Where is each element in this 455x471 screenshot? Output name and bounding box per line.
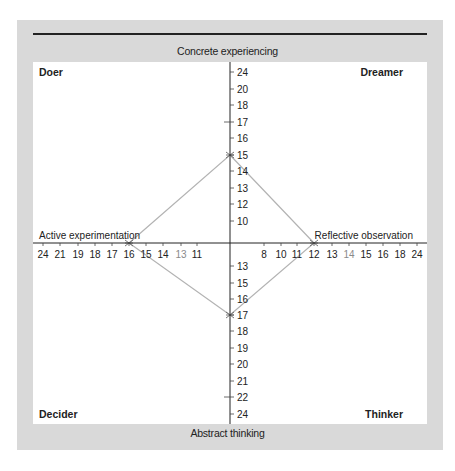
tick-label-bottom: 21: [237, 376, 249, 387]
tick-label-bottom: 20: [237, 359, 249, 370]
tick-label-right: 16: [377, 249, 389, 260]
axis-title-left: Active experimentation: [39, 230, 140, 241]
tick-label-right: 13: [326, 249, 338, 260]
score-polygon: [129, 155, 314, 315]
axis-title-right: Reflective observation: [315, 230, 413, 241]
tick-label-left: 13: [175, 249, 187, 260]
tick-label-top: 24: [237, 67, 249, 78]
tick-label-left: 21: [54, 249, 66, 260]
score-diamond: [125, 152, 318, 318]
tick-label-top: 17: [237, 117, 249, 128]
tick-label-right: 11: [292, 249, 303, 260]
tick-label-left: 24: [37, 249, 49, 260]
tick-label-bottom: 16: [237, 294, 249, 305]
tick-label-bottom: 18: [237, 326, 249, 337]
tick-label-left: 16: [123, 249, 135, 260]
tick-label-bottom: 24: [237, 409, 249, 420]
tick-label-right: 15: [360, 249, 372, 260]
tick-label-left: 18: [89, 249, 101, 260]
tick-label-right: 24: [411, 249, 423, 260]
tick-label-bottom: 13: [237, 261, 249, 272]
tick-label-bottom: 19: [237, 343, 249, 354]
tick-label-right: 8: [261, 249, 267, 260]
tick-label-left: 19: [72, 249, 84, 260]
quadrant-label-thinker: Thinker: [365, 408, 403, 420]
axes: [33, 62, 427, 424]
quadrant-chart: 2420181716151413121013151617181920212224…: [0, 0, 455, 471]
tick-label-top: 14: [237, 166, 249, 177]
tick-label-right: 18: [394, 249, 406, 260]
tick-label-top: 12: [237, 199, 249, 210]
tick-label-top: 20: [237, 84, 249, 95]
tick-label-bottom: 15: [237, 278, 249, 289]
tick-label-left: 17: [106, 249, 118, 260]
tick-label-bottom: 22: [237, 392, 249, 403]
tick-label-top: 10: [237, 216, 249, 227]
quadrant-label-doer: Doer: [39, 66, 63, 78]
tick-label-right: 12: [308, 249, 320, 260]
quadrant-label-dreamer: Dreamer: [360, 66, 403, 78]
tick-label-left: 15: [140, 249, 152, 260]
tick-label-right: 14: [343, 249, 355, 260]
tick-label-top: 16: [237, 133, 249, 144]
tick-label-top: 13: [237, 183, 249, 194]
tick-label-bottom: 17: [237, 310, 249, 321]
quadrant-label-decider: Decider: [39, 408, 78, 420]
tick-label-right: 10: [275, 249, 287, 260]
tick-label-left: 14: [157, 249, 169, 260]
tick-label-top: 18: [237, 100, 249, 111]
tick-label-left: 11: [192, 249, 203, 260]
tick-label-top: 15: [237, 150, 249, 161]
